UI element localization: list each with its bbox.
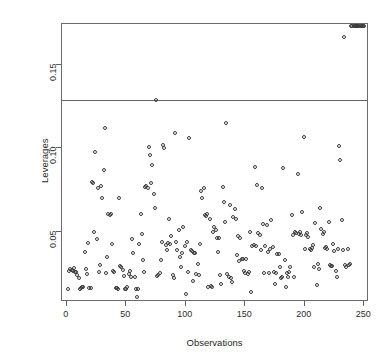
data-point [286, 275, 290, 279]
data-point [125, 285, 129, 289]
data-point [322, 230, 326, 234]
data-point [146, 186, 150, 190]
data-point [281, 166, 285, 170]
data-point [193, 251, 197, 255]
data-point [362, 24, 366, 28]
data-point [274, 271, 278, 275]
y-axis-title: Leverages [40, 121, 50, 201]
data-point [150, 163, 154, 167]
data-point [219, 282, 223, 286]
x-tick-label: 150 [229, 310, 259, 319]
data-point [181, 225, 185, 229]
data-point [168, 242, 172, 246]
data-point [179, 265, 183, 269]
data-point [200, 196, 204, 200]
data-point [325, 247, 329, 251]
data-point [147, 145, 151, 149]
data-point [244, 257, 248, 261]
data-point [162, 146, 166, 150]
data-point [316, 262, 320, 266]
data-point [313, 221, 317, 225]
data-point [184, 292, 188, 296]
data-point [98, 263, 102, 267]
y-tick-label: 0.05 [49, 230, 58, 252]
data-point [318, 206, 322, 210]
data-point [312, 265, 316, 269]
data-point [210, 285, 214, 289]
data-point [97, 270, 101, 274]
data-point [92, 230, 96, 234]
data-point [159, 258, 163, 262]
data-point [292, 275, 296, 279]
data-point [315, 283, 319, 287]
data-point [154, 98, 158, 102]
data-point [335, 275, 339, 279]
data-point [103, 126, 107, 130]
data-point [153, 206, 157, 210]
data-point [140, 232, 144, 236]
data-point [173, 131, 177, 135]
data-point [235, 253, 239, 257]
data-point [99, 184, 103, 188]
data-point [196, 262, 200, 266]
x-tick-mark [66, 301, 67, 306]
data-point [340, 218, 344, 222]
x-tick-mark [185, 301, 186, 306]
x-axis-title: Observations [175, 338, 255, 348]
data-point [208, 217, 212, 221]
data-point [216, 250, 220, 254]
data-point [317, 267, 321, 271]
data-point [175, 248, 179, 252]
data-point [148, 153, 152, 157]
data-point [267, 271, 271, 275]
data-point [136, 287, 140, 291]
x-tick-mark [304, 301, 305, 306]
data-point [302, 135, 306, 139]
data-point [255, 183, 259, 187]
data-point [222, 200, 226, 204]
data-point [77, 276, 81, 280]
leverage-threshold-line [62, 100, 367, 101]
data-point [265, 223, 269, 227]
data-point [221, 185, 225, 189]
data-point [205, 212, 209, 216]
data-point [110, 242, 114, 246]
data-point [89, 286, 93, 290]
data-point [197, 273, 201, 277]
data-point [178, 255, 182, 259]
x-tick-label: 250 [348, 310, 378, 319]
data-point [152, 192, 156, 196]
data-point [342, 35, 346, 39]
data-point [135, 295, 139, 299]
y-tick-label: 0.15 [49, 63, 58, 85]
data-point [112, 270, 116, 274]
x-tick-label: 0 [51, 310, 81, 319]
data-point [86, 241, 90, 245]
leverage-plot: 0.050.100.15 050100150200250 Leverages O… [0, 0, 387, 363]
data-point [233, 207, 237, 211]
x-tick-label: 100 [170, 310, 200, 319]
data-point [186, 270, 190, 274]
data-point [263, 244, 267, 248]
x-tick-mark [125, 301, 126, 306]
data-point [167, 217, 171, 221]
data-point [254, 244, 258, 248]
data-point [142, 270, 146, 274]
data-point [93, 150, 97, 154]
data-point [91, 181, 95, 185]
data-point [131, 251, 135, 255]
data-point [116, 287, 120, 291]
data-point [198, 242, 202, 246]
data-point [273, 282, 277, 286]
data-point [247, 270, 251, 274]
data-point [133, 275, 137, 279]
data-point [174, 240, 178, 244]
data-point [177, 228, 181, 232]
x-tick-mark [363, 301, 364, 306]
data-point [271, 245, 275, 249]
x-tick-mark [244, 301, 245, 306]
data-point [228, 203, 232, 207]
data-point [130, 237, 134, 241]
data-point [283, 258, 287, 262]
data-point [303, 247, 307, 251]
